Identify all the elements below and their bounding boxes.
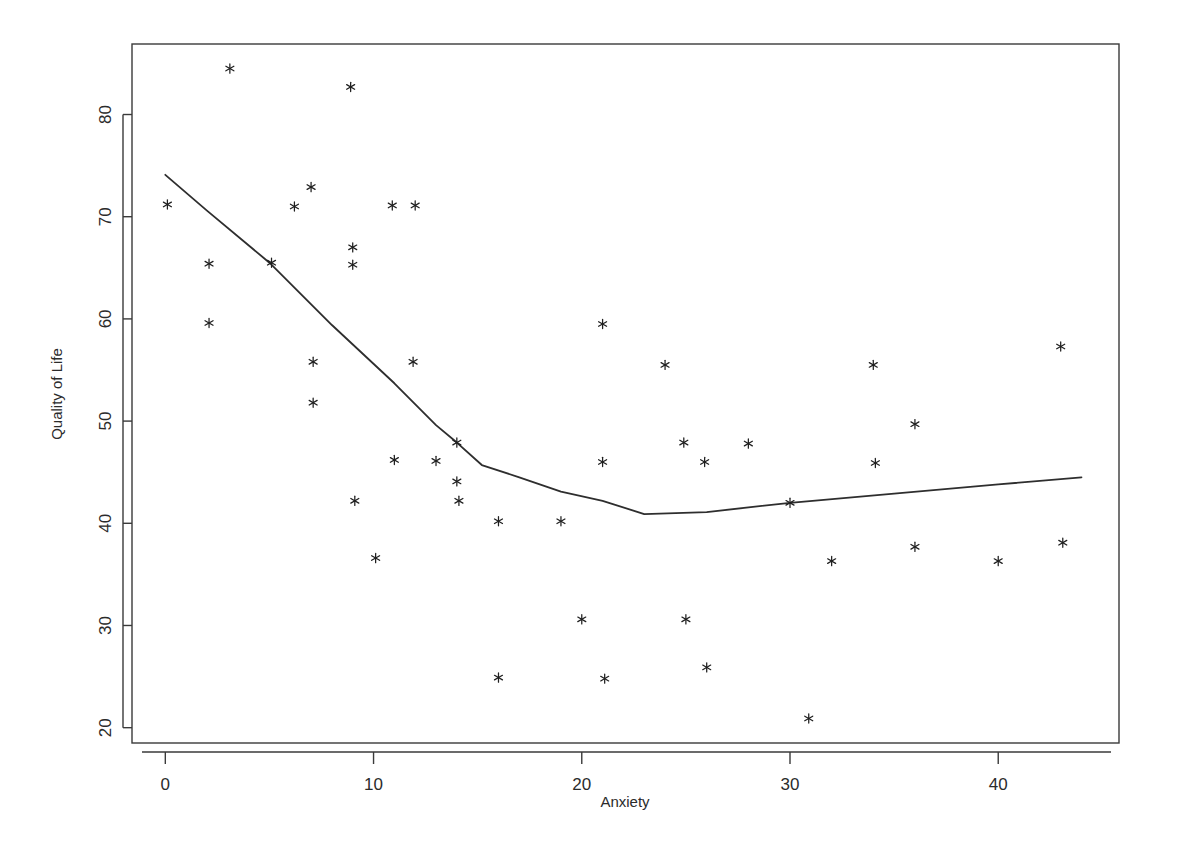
y-tick-label: 70	[97, 207, 116, 226]
x-tick-label: 0	[161, 775, 170, 794]
x-tick-label: 40	[989, 775, 1008, 794]
y-tick-label: 50	[97, 412, 116, 431]
y-tick-label: 30	[97, 616, 116, 635]
x-tick-label: 10	[364, 775, 383, 794]
plot-canvas: 010203040 20304050607080 Anxiety Quality…	[0, 0, 1179, 860]
x-tick-label: 30	[781, 775, 800, 794]
scatter-plot-figure: 010203040 20304050607080 Anxiety Quality…	[0, 0, 1179, 860]
y-tick-label: 40	[97, 514, 116, 533]
figure-background	[0, 0, 1179, 860]
y-tick-label: 20	[97, 718, 116, 737]
x-tick-label: 20	[572, 775, 591, 794]
y-axis-label: Quality of Life	[48, 348, 65, 440]
x-axis-label: Anxiety	[600, 793, 650, 810]
y-tick-label: 60	[97, 309, 116, 328]
y-tick-label: 80	[97, 105, 116, 124]
